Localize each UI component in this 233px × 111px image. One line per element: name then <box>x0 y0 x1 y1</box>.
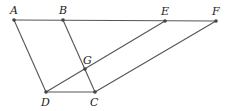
segment-de <box>46 21 165 92</box>
point-b <box>61 18 65 22</box>
point-e <box>163 19 167 23</box>
label-b: B <box>58 4 67 17</box>
label-a: A <box>9 4 18 17</box>
segments <box>14 20 216 92</box>
label-c: C <box>90 96 99 109</box>
label-e: E <box>160 5 169 18</box>
point-c <box>93 90 97 94</box>
segment-ad <box>14 20 46 92</box>
point-g <box>83 67 87 71</box>
point-d <box>44 90 48 94</box>
segment-af <box>14 20 216 21</box>
segment-cf <box>95 21 216 92</box>
geometry-figure: ABEFGDC <box>0 0 233 111</box>
label-f: F <box>211 5 220 18</box>
label-g: G <box>83 54 92 67</box>
points <box>12 18 218 94</box>
point-f <box>214 19 218 23</box>
label-d: D <box>40 96 50 109</box>
point-a <box>12 18 16 22</box>
